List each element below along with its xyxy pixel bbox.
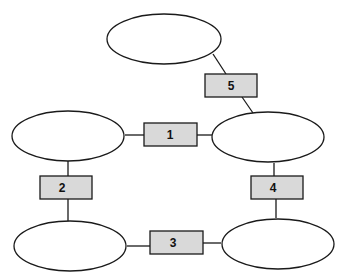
connector-label-1: 1 — [167, 128, 174, 142]
connector-label-2: 2 — [59, 181, 66, 195]
line-box5-to-middle-right — [242, 97, 253, 113]
ellipse-middle-left — [12, 111, 124, 161]
ellipse-bottom-left — [14, 221, 126, 271]
line-top-to-box5 — [213, 54, 226, 74]
ellipse-middle-right — [212, 112, 324, 162]
connector-label-3: 3 — [170, 236, 177, 250]
connector-box-2 — [40, 176, 92, 199]
connector-label-5: 5 — [228, 79, 235, 93]
connector-box-4 — [251, 176, 303, 199]
connector-label-4: 4 — [270, 181, 277, 195]
diagram-canvas: 5 1 2 4 3 — [0, 0, 344, 279]
ellipse-bottom-right — [222, 219, 334, 269]
ellipse-top — [107, 14, 221, 64]
connector-box-3 — [150, 231, 203, 254]
